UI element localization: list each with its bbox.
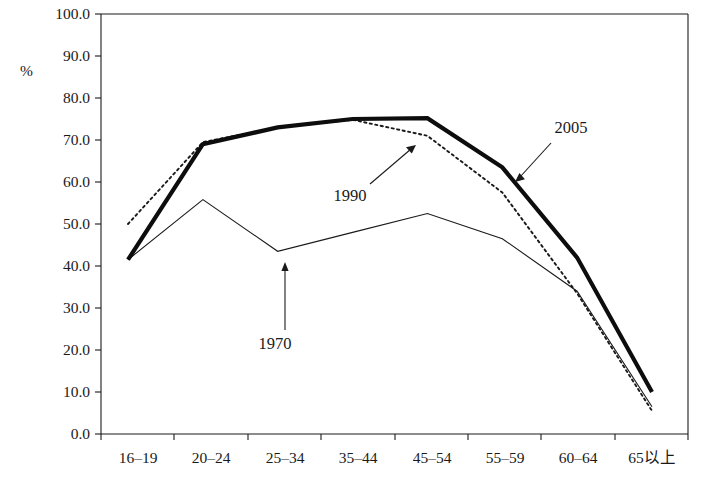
annotation-1990-leader	[370, 149, 411, 184]
x-label-25-34: 25–34	[266, 449, 305, 466]
y-tick-label-0: 0.0	[71, 425, 91, 442]
line-chart: 0.0 10.0 20.0 30.0 40.0 50.0 60.0 70.0 8…	[0, 0, 704, 478]
y-tick-label-100: 100.0	[55, 5, 90, 22]
chart-container: 0.0 10.0 20.0 30.0 40.0 50.0 60.0 70.0 8…	[0, 0, 704, 478]
annotation-1970-arrowhead	[281, 262, 288, 271]
y-axis-tick-labels: 0.0 10.0 20.0 30.0 40.0 50.0 60.0 70.0 8…	[55, 5, 90, 442]
x-label-16-19: 16–19	[119, 449, 158, 466]
annotation-2005-arrowhead	[515, 173, 525, 182]
x-label-65-plus: 65以上	[628, 449, 676, 466]
x-label-45-54: 45–54	[413, 449, 452, 466]
y-tick-label-70: 70.0	[63, 131, 90, 148]
series-line-1990	[128, 120, 652, 411]
annotation-1970-label: 1970	[259, 334, 292, 353]
x-label-35-44: 35–44	[339, 449, 378, 466]
y-tick-label-80: 80.0	[63, 89, 90, 106]
y-axis-unit-label: %	[20, 62, 33, 79]
y-tick-label-10: 10.0	[63, 383, 90, 400]
x-label-20-24: 20–24	[192, 449, 231, 466]
y-tick-label-90: 90.0	[63, 47, 90, 64]
axes	[101, 14, 688, 434]
y-tick-label-30: 30.0	[63, 299, 90, 316]
annotation-1990: 1990	[334, 145, 417, 205]
x-label-60-64: 60–64	[559, 449, 598, 466]
series-line-1970	[128, 200, 652, 407]
annotation-1970: 1970	[259, 262, 292, 353]
y-tick-label-40: 40.0	[63, 257, 90, 274]
y-axis-ticks	[95, 14, 101, 434]
annotation-2005-leader	[520, 143, 551, 177]
annotation-1990-label: 1990	[334, 186, 367, 205]
y-tick-label-50: 50.0	[63, 215, 90, 232]
annotation-2005: 2005	[515, 118, 588, 182]
x-label-55-59: 55–59	[486, 449, 525, 466]
annotation-2005-label: 2005	[555, 118, 588, 137]
series-line-2005	[128, 118, 652, 392]
x-axis-category-labels: 16–19 20–24 25–34 35–44 45–54 55–59 60–6…	[119, 449, 676, 466]
y-tick-label-60: 60.0	[63, 173, 90, 190]
y-tick-label-20: 20.0	[63, 341, 90, 358]
x-axis-ticks	[101, 434, 688, 440]
